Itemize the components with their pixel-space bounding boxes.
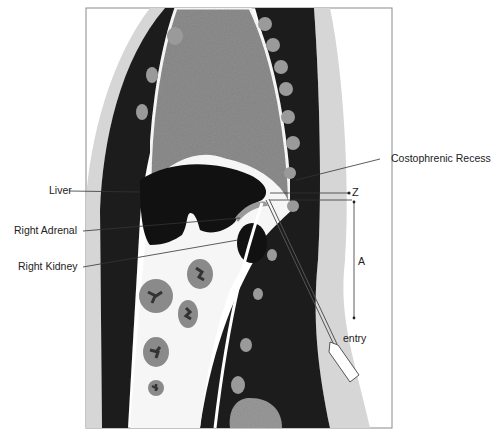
- label-liver: Liver: [49, 185, 72, 196]
- right-kidney: [237, 223, 267, 263]
- label-right-kidney: Right Kidney: [18, 261, 78, 272]
- label-z: Z: [352, 187, 359, 198]
- label-costophrenic-recess: Costophrenic Recess: [391, 153, 491, 164]
- anatomy-illustration: [0, 0, 504, 439]
- label-entry: entry: [343, 333, 366, 344]
- label-right-adrenal: Right Adrenal: [14, 225, 77, 236]
- label-a: A: [358, 256, 365, 267]
- diagram-canvas: Liver Right Adrenal Right Kidney Costoph…: [0, 0, 504, 439]
